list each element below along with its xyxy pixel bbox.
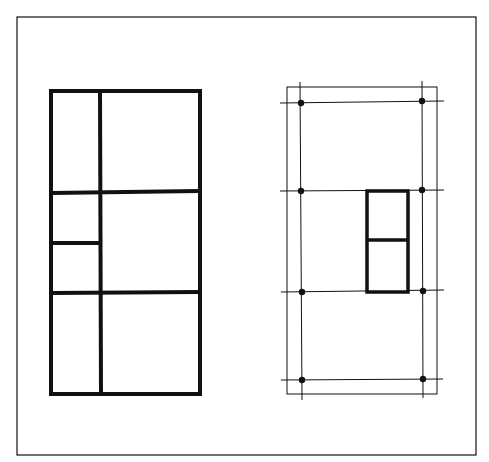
left-divider-line bbox=[51, 191, 199, 193]
grid-intersection-dot bbox=[420, 288, 426, 294]
grid-intersection-dot bbox=[420, 376, 426, 382]
grid-intersection-dot bbox=[299, 289, 305, 295]
grid-intersection-dot bbox=[298, 100, 304, 106]
grid-intersection-dot bbox=[298, 188, 304, 194]
left-divider-line bbox=[100, 91, 101, 394]
grid-intersection-dot bbox=[419, 187, 425, 193]
diagram-canvas bbox=[0, 0, 489, 462]
grid-intersection-dot bbox=[419, 98, 425, 104]
grid-intersection-dot bbox=[299, 377, 305, 383]
left-divider-line bbox=[51, 292, 199, 293]
